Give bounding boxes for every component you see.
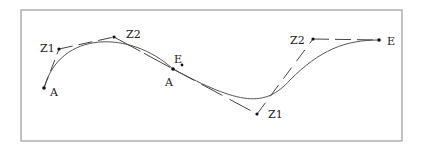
label-e-middle: E [174,53,182,66]
point-z2-second [311,37,314,40]
label-a-start: A [49,86,59,99]
label-z2-first: Z2 [126,28,141,41]
bezier-diagram: A Z1 Z2 E A Z1 Z2 E [0,0,426,152]
label-z2-second: Z2 [290,34,305,47]
label-e-end: E [387,35,395,48]
label-z1-second: Z1 [268,108,283,121]
point-z2-first [112,35,115,38]
diagram-frame [21,10,402,141]
point-e-end [377,38,381,42]
point-z1-second [255,112,258,115]
point-a-start [42,86,46,90]
point-a-middle [171,67,175,71]
point-z1-first [57,47,60,50]
label-a-middle: A [164,76,174,89]
label-z1-first: Z1 [40,42,55,55]
